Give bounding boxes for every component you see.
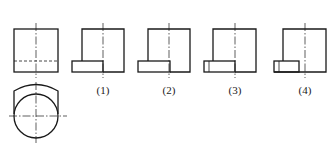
option-1-view[interactable]: (1) <box>72 23 124 97</box>
projection-diagram: (1) (2) (3) (4) <box>0 0 334 157</box>
option-2-label: (2) <box>163 84 176 97</box>
front-view <box>14 23 58 78</box>
option-4-view[interactable]: (4) <box>274 23 326 97</box>
option-3-label: (3) <box>229 84 242 97</box>
option-4-label: (4) <box>299 84 312 97</box>
option-3-view[interactable]: (3) <box>204 23 256 97</box>
top-view <box>9 82 67 143</box>
option-2-view[interactable]: (2) <box>138 23 190 97</box>
option-1-label: (1) <box>97 84 110 97</box>
